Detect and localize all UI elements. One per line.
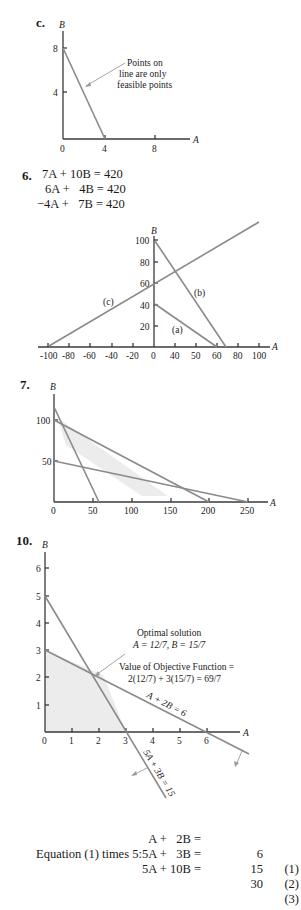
system-rhs: 30 <box>251 877 264 892</box>
y-tick: 8 <box>53 44 58 54</box>
x-tick: 2 <box>96 736 101 746</box>
x-tick: 5 <box>177 736 182 746</box>
equation-lhs: 6A + 4B <box>45 182 94 196</box>
system-row: Equation (1) times 5: 5A + 10B = 30 (3) <box>0 832 301 910</box>
x-tick: 40 <box>170 351 180 361</box>
y-tick: 20 <box>140 322 150 332</box>
problem-number-7: 7. <box>20 377 30 392</box>
y-tick: 4 <box>53 88 58 98</box>
chart-10: 10. B A 1 2 3 4 5 6 0 1 2 3 4 5 6 <box>16 533 249 798</box>
y-tick: 80 <box>140 258 150 268</box>
system-tag: (3) <box>284 892 299 907</box>
x-tick: 0 <box>60 144 65 154</box>
x-tick: 60 <box>212 351 222 361</box>
x-tick: 100 <box>124 506 139 516</box>
y-axis-label: B <box>151 226 157 236</box>
system-prefix: Equation (1) times 5: <box>36 847 142 862</box>
y-tick: 2 <box>36 673 41 683</box>
x-tick: 0 <box>51 506 56 516</box>
line-2 <box>54 420 209 502</box>
chart-c: c. B A 4 8 0 4 8 Points on line are only… <box>36 15 199 154</box>
x-tick: 80 <box>233 351 243 361</box>
equation-lhs: 7A + 10B <box>42 167 91 181</box>
equation-lhs: −4A + 7B <box>37 197 93 211</box>
annotation-line-3: feasible points <box>117 80 172 90</box>
system-lhs: 5A + 10B = <box>142 862 201 877</box>
x-tick: 50 <box>191 351 201 361</box>
feasible-region <box>58 418 168 496</box>
problem-number-10: 10. <box>16 533 32 548</box>
x-tick: 0 <box>151 351 156 361</box>
line-a <box>155 304 217 347</box>
annotation-line-2: line are only <box>119 69 167 79</box>
y-tick: 100 <box>36 416 51 426</box>
x-tick: 200 <box>201 506 216 516</box>
y-tick: 100 <box>135 236 150 246</box>
x-tick: -80 <box>62 351 75 361</box>
x-tick: -100 <box>40 351 58 361</box>
line-label-b: (b) <box>194 288 205 299</box>
x-axis-label: A <box>271 342 278 352</box>
x-tick: 4 <box>102 144 107 154</box>
line-label-a: (a) <box>172 325 183 336</box>
y-tick: 5 <box>36 592 41 602</box>
x-tick: -20 <box>126 351 139 361</box>
x-axis-label: A <box>192 135 199 145</box>
optimal-values: A = 12/7, B = 15/7 <box>132 640 207 650</box>
x-tick: -60 <box>83 351 96 361</box>
objective-calc: 2(12/7) + 3(15/7) = 69/7 <box>128 674 221 685</box>
y-tick: 50 <box>42 457 52 467</box>
objective-title: Value of Objective Function = <box>119 662 234 672</box>
x-tick: 8 <box>152 144 157 154</box>
x-axis-label: A <box>242 728 249 738</box>
line-label-5a-plus-3b: 5A + 3B = 15 <box>141 748 177 799</box>
x-tick: 1 <box>69 736 74 746</box>
optimal-title: Optimal solution <box>137 628 201 638</box>
y-tick: 6 <box>36 564 41 574</box>
x-tick: 3 <box>123 736 128 746</box>
equation-rhs: = 420 <box>97 182 126 196</box>
equation: 6A + 4B = 420 <box>45 182 126 197</box>
line-label-c: (c) <box>103 297 114 308</box>
equation-rhs: = 420 <box>94 167 123 181</box>
x-tick: -40 <box>105 351 118 361</box>
chart-7: 7. B A 50 100 0 50 100 150 200 250 <box>20 377 276 516</box>
x-tick: 6 <box>204 736 209 746</box>
y-tick: 3 <box>36 646 41 656</box>
line-b <box>155 241 226 347</box>
x-tick: 0 <box>42 736 47 746</box>
equation: −4A + 7B = 420 <box>37 197 125 212</box>
problem-number-6: 6. <box>22 168 32 183</box>
y-axis-label: B <box>59 20 65 30</box>
x-tick: 4 <box>150 736 155 746</box>
y-tick: 4 <box>36 619 41 629</box>
y-axis-label: B <box>50 382 56 392</box>
x-tick: 250 <box>240 506 255 516</box>
x-tick: 50 <box>88 506 98 516</box>
equation-rhs: = 420 <box>96 197 125 211</box>
y-tick: 40 <box>140 301 150 311</box>
annotation-line-1: Points on <box>127 58 163 68</box>
constraint-line <box>63 48 105 139</box>
equation: 7A + 10B = 420 <box>42 167 123 182</box>
x-tick: 150 <box>163 506 178 516</box>
x-tick: 100 <box>252 351 267 361</box>
y-tick: 1 <box>36 701 41 711</box>
y-axis-label: B <box>42 540 48 550</box>
x-axis-label: A <box>269 498 276 508</box>
problem-number-c: c. <box>36 15 45 30</box>
